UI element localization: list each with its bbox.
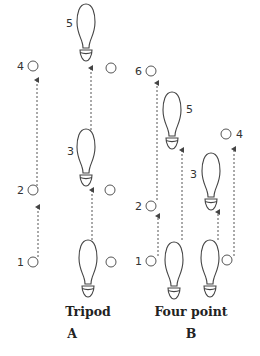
circle-icon: [146, 66, 156, 76]
panel-title: Tripod: [65, 304, 111, 319]
circle-icon: [146, 256, 156, 266]
circle-icon: [146, 201, 156, 211]
step-label: 5: [66, 17, 73, 30]
step-label: 1: [17, 256, 24, 269]
footprint-icon: [77, 129, 95, 186]
panel-b-four-point: 6 2 1 5 3 4 Four point B: [135, 65, 243, 341]
footprint-icon: [79, 240, 97, 297]
circle-icon: [28, 185, 38, 195]
circle-icon: [106, 257, 116, 267]
circle-icon: [222, 255, 232, 265]
panel-letter: B: [186, 326, 197, 341]
footprint-icon: [77, 4, 95, 61]
step-label: 4: [236, 128, 243, 141]
circle-icon: [28, 257, 38, 267]
footprint-icon: [202, 153, 220, 210]
gait-pattern-diagram: 4 2 1 5 3 Tripod A 6 2 1 5: [0, 0, 260, 356]
step-label: 5: [186, 103, 193, 116]
circle-icon: [105, 185, 115, 195]
step-label: 3: [190, 168, 197, 181]
circle-icon: [221, 129, 231, 139]
step-label: 1: [135, 255, 142, 268]
step-label: 3: [67, 145, 74, 158]
panel-letter: A: [66, 326, 77, 341]
step-label: 2: [135, 200, 142, 213]
footprint-icon: [201, 240, 219, 297]
circle-icon: [28, 61, 38, 71]
step-label: 4: [17, 60, 24, 73]
footprint-icon: [165, 242, 183, 299]
step-label: 6: [135, 65, 142, 78]
panel-a-tripod: 4 2 1 5 3 Tripod A: [17, 4, 116, 341]
panel-title: Four point: [154, 304, 227, 319]
circle-icon: [106, 63, 116, 73]
footprint-icon: [163, 92, 181, 149]
step-label: 2: [17, 184, 24, 197]
